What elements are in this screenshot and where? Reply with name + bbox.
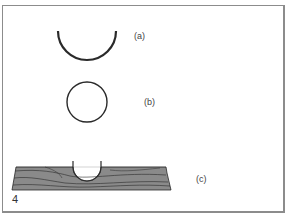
panel-label-b: (b) bbox=[144, 97, 155, 107]
diagram-canvas bbox=[0, 0, 293, 215]
grooved-board-shape bbox=[12, 161, 171, 190]
panel-label-a: (a) bbox=[134, 31, 145, 41]
circle-shape bbox=[67, 82, 107, 122]
semicircle-arc-shape bbox=[58, 31, 116, 60]
figure-number: 4 bbox=[12, 193, 18, 205]
panel-label-c: (c) bbox=[196, 174, 207, 184]
